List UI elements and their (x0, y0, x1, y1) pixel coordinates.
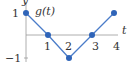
x-tick-label-4: 4 (113, 40, 120, 53)
x-tick-label-1: 1 (44, 40, 51, 53)
y-axis-label: y (21, 0, 29, 7)
chart: 1 −1 1 2 3 4 t y g(t) (0, 0, 131, 72)
x-tick-label-3: 3 (92, 40, 99, 53)
series-label: g(t) (35, 5, 55, 18)
x-axis-label: t (122, 24, 127, 37)
y-tick-label-1: 1 (12, 7, 19, 20)
x-tick-label-2: 2 (65, 40, 72, 53)
y-tick-label-neg1: −1 (5, 52, 21, 65)
